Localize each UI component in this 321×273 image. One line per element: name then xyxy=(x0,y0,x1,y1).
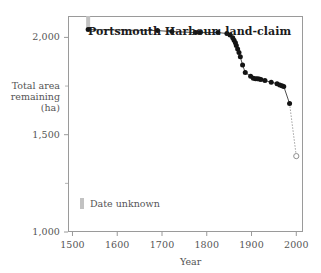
y-axis-label-line-3: (ha) xyxy=(4,102,60,113)
x-tick-label: 1700 xyxy=(142,239,182,250)
x-tick-label: 1800 xyxy=(187,239,227,250)
y-tick-label: 2,000 xyxy=(20,31,60,42)
x-tick-label: 2000 xyxy=(276,239,316,250)
y-axis-label-line-2: remaining xyxy=(4,91,60,102)
x-tick-label: 1900 xyxy=(232,239,272,250)
series-data-points xyxy=(86,27,292,106)
chart-figure: Portsmouth Harbour: land-claim Total are… xyxy=(0,0,321,273)
y-tick-label: 1,500 xyxy=(20,129,60,140)
legend-item-label: Date unknown xyxy=(90,198,160,209)
y-axis-label: Total area remaining (ha) xyxy=(4,80,60,113)
projected-segment xyxy=(290,104,299,159)
chart-title: Portsmouth Harbour: land-claim xyxy=(88,25,291,38)
y-tick-label: 1,000 xyxy=(20,226,60,237)
x-tick-label: 1600 xyxy=(97,239,137,250)
x-tick-label: 1500 xyxy=(52,239,92,250)
series-line-path xyxy=(88,30,289,104)
y-axis-label-line-1: Total area xyxy=(4,80,60,91)
x-axis-label: Year xyxy=(180,256,201,267)
date-unknown-swatch-icon xyxy=(80,198,84,209)
chart-legend: Date unknown xyxy=(80,198,160,209)
